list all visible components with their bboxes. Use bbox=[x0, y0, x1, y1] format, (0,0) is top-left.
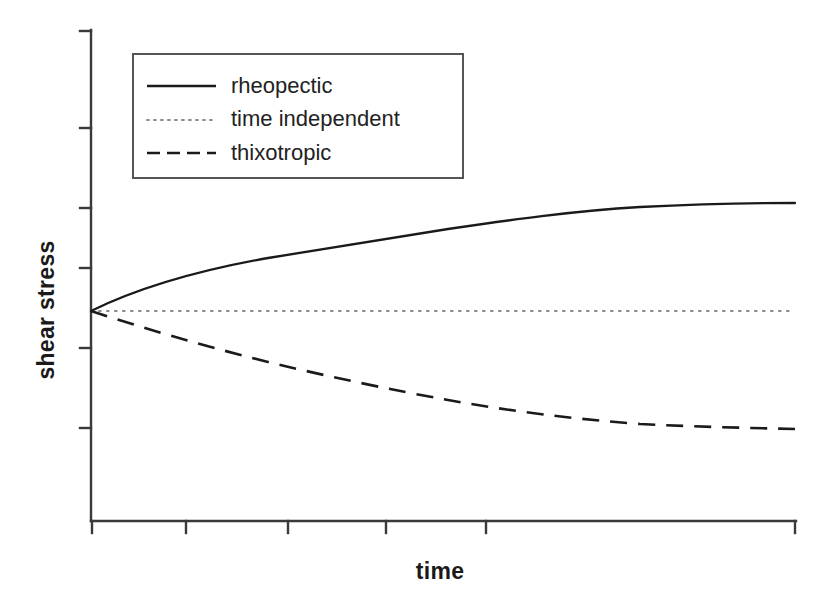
chart-figure: rheopectic time independent thixotropic … bbox=[0, 0, 824, 613]
x-axis-title: time bbox=[320, 558, 560, 585]
legend-label-thixotropic: thixotropic bbox=[231, 140, 331, 166]
legend-label-rheopectic: rheopectic bbox=[231, 73, 333, 99]
plot-canvas bbox=[0, 0, 824, 613]
series-rheopectic bbox=[91, 203, 795, 311]
y-axis-ticks bbox=[80, 31, 91, 428]
x-axis-ticks bbox=[92, 521, 795, 533]
series-thixotropic bbox=[91, 311, 795, 429]
legend-label-time-independent: time independent bbox=[231, 106, 400, 132]
y-axis-title: shear stress bbox=[33, 180, 60, 440]
